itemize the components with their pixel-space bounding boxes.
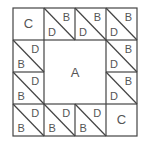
triangle-label-upper-right: B: [125, 43, 132, 55]
triangle-label-lower-left: D: [110, 26, 118, 38]
triangle-label-upper-right: B: [125, 11, 132, 23]
triangle-label-lower-left: D: [79, 26, 87, 38]
corner-square-label: C: [117, 112, 126, 127]
triangle-label-upper-right: B: [125, 75, 132, 87]
triangle-label-lower-left: B: [17, 90, 24, 102]
center-square-label: A: [71, 65, 80, 80]
triangle-label-upper-right: D: [31, 107, 39, 119]
triangle-label-lower-left: B: [17, 122, 24, 134]
triangle-label-lower-left: B: [79, 122, 86, 134]
triangle-label-lower-left: B: [17, 58, 24, 70]
quilt-block-diagram: BDBDBDDBBDDBBDDBDBDBCCA: [0, 0, 142, 144]
triangle-label-upper-right: D: [31, 43, 39, 55]
corner-square-label: C: [24, 16, 33, 31]
triangle-label-lower-left: D: [110, 58, 118, 70]
triangle-label-upper-right: D: [31, 75, 39, 87]
triangle-label-upper-right: D: [62, 107, 70, 119]
triangle-label-upper-right: B: [94, 11, 101, 23]
triangle-label-lower-left: D: [48, 26, 56, 38]
triangle-label-lower-left: D: [110, 90, 118, 102]
triangle-label-lower-left: B: [48, 122, 55, 134]
triangle-label-upper-right: B: [63, 11, 70, 23]
triangle-label-upper-right: D: [93, 107, 101, 119]
